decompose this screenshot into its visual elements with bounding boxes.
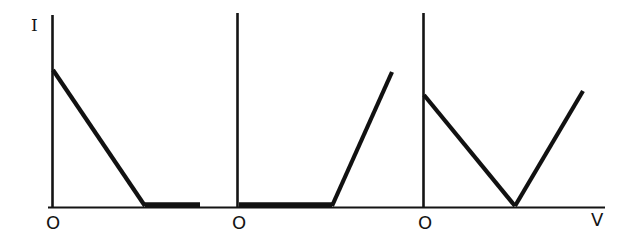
- current-axis-label-I: I: [31, 17, 38, 34]
- panel-1-decreasing-segment: [53, 70, 145, 206]
- panel-1-group: [53, 15, 201, 208]
- figure-canvas: [0, 0, 634, 237]
- iv-characteristic-figure: I O O O V: [0, 0, 634, 237]
- panel-2-increasing-segment: [332, 72, 392, 206]
- panel-3-decreasing-segment: [424, 95, 515, 206]
- panel-3-increasing-segment: [515, 91, 583, 206]
- origin-label-panel-1: O: [46, 214, 61, 232]
- voltage-axis-label-V: V: [591, 211, 604, 229]
- origin-label-panel-3: O: [418, 214, 433, 232]
- origin-label-panel-2: O: [232, 214, 247, 232]
- panel-3-group: [424, 13, 584, 208]
- panel-2-group: [238, 13, 393, 208]
